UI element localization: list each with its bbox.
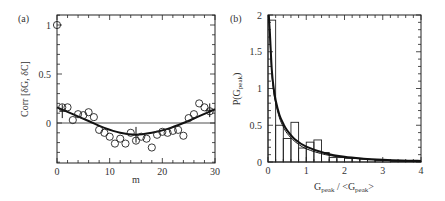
data-point — [148, 144, 155, 151]
x-tick-label: 1 — [304, 165, 309, 176]
panel-b-label: (b) — [230, 13, 242, 25]
data-point — [190, 111, 197, 118]
data-point — [175, 126, 182, 133]
histogram-bar — [390, 161, 398, 162]
x-tick-label: 2 — [342, 165, 347, 176]
data-point — [69, 116, 76, 123]
y-tick-label: 1 — [46, 20, 51, 31]
data-point — [180, 132, 187, 139]
x-tick-label: 30 — [210, 166, 220, 177]
histogram-bar — [337, 158, 345, 162]
y-tick-label: 0 — [257, 157, 262, 168]
histogram-bar — [276, 125, 284, 162]
y-tick-label: 2 — [257, 10, 262, 21]
panel-b: (b) 01234 00.511.52 Gpeak / <Gpeak> P(Gp… — [230, 10, 424, 195]
panel-a-data-points — [53, 21, 213, 151]
panel-a-x-axis-label: m — [132, 174, 140, 185]
y-tick-label: 1 — [257, 83, 262, 94]
histogram-bar — [375, 161, 383, 162]
y-tick-label: 0.5 — [39, 69, 52, 80]
panel-a-y-axis-label: Corr [δG, δC] — [19, 61, 30, 117]
data-point — [106, 133, 113, 140]
figure: (a) 0102030 00.51 m Corr [δG, δC] (b) 01… — [0, 0, 445, 201]
histogram-bar — [299, 148, 307, 162]
panel-b-x-tick-labels: 01234 — [266, 165, 424, 176]
data-point — [90, 114, 97, 121]
data-point — [64, 104, 71, 111]
histogram-bar — [306, 142, 314, 162]
panel-b-y-tick-labels: 00.511.52 — [250, 10, 263, 168]
x-tick-label: 3 — [380, 165, 385, 176]
y-tick-label: 0.5 — [250, 120, 263, 131]
panel-b-y-axis-label: P(Gpeak) — [231, 73, 244, 106]
panel-b-histogram — [268, 20, 421, 162]
data-point — [122, 140, 129, 147]
panel-a: (a) 0102030 00.51 m Corr [δG, δC] — [18, 13, 220, 185]
histogram-bar — [283, 138, 291, 162]
panel-a-y-tick-labels: 00.51 — [39, 20, 52, 129]
x-tick-label: 4 — [419, 165, 424, 176]
data-point — [196, 100, 203, 107]
x-tick-label: 0 — [266, 165, 271, 176]
y-tick-label: 1.5 — [250, 46, 263, 57]
y-tick-label: 0 — [46, 118, 51, 129]
data-point — [201, 104, 208, 111]
x-tick-label: 0 — [55, 166, 60, 177]
panel-b-curve-2 — [269, 15, 421, 161]
histogram-bar — [345, 158, 353, 162]
histogram-bar — [329, 158, 337, 162]
panel-a-label: (a) — [18, 13, 29, 25]
x-tick-label: 20 — [157, 166, 167, 177]
x-tick-label: 10 — [105, 166, 115, 177]
panel-b-x-axis-label: Gpeak / <Gpeak> — [314, 181, 374, 194]
